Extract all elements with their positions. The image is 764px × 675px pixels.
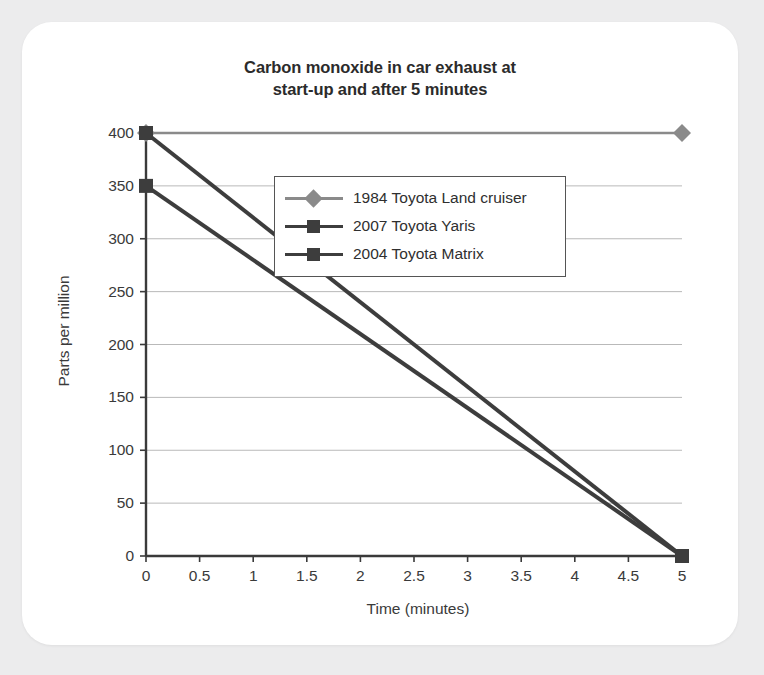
- y-tick-label: 350: [88, 177, 134, 195]
- x-axis-title: Time (minutes): [146, 600, 690, 618]
- x-tick-label: 1: [228, 567, 278, 585]
- y-tick-label: 50: [88, 494, 134, 512]
- x-tick-label: 4: [550, 567, 600, 585]
- y-tick-label: 150: [88, 388, 134, 406]
- chart-card: Carbon monoxide in car exhaust at start-…: [22, 22, 738, 645]
- chart-legend: 1984 Toyota Land cruiser2007 Toyota Yari…: [274, 176, 566, 277]
- y-tick-label: 300: [88, 230, 134, 248]
- x-tick-label: 4.5: [603, 567, 653, 585]
- x-tick-label: 5: [657, 567, 707, 585]
- legend-item[interactable]: 2007 Toyota Yaris: [285, 212, 555, 240]
- legend-label: 2004 Toyota Matrix: [353, 245, 484, 263]
- x-tick-label: 2.5: [389, 567, 439, 585]
- data-point-marker-square: [675, 549, 689, 563]
- y-axis-title: Parts per million: [55, 251, 73, 411]
- legend-label: 1984 Toyota Land cruiser: [353, 189, 527, 207]
- legend-square-icon: [285, 245, 343, 263]
- legend-label: 2007 Toyota Yaris: [353, 217, 475, 235]
- y-tick-label: 200: [88, 336, 134, 354]
- y-tick-label: 100: [88, 441, 134, 459]
- x-tick-label: 0.5: [175, 567, 225, 585]
- legend-item[interactable]: 2004 Toyota Matrix: [285, 240, 555, 268]
- y-tick-label: 0: [88, 547, 134, 565]
- x-tick-label: 3.5: [496, 567, 546, 585]
- y-tick-label: 250: [88, 283, 134, 301]
- legend-square-icon: [285, 217, 343, 235]
- x-tick-label: 2: [335, 567, 385, 585]
- legend-item[interactable]: 1984 Toyota Land cruiser: [285, 184, 555, 212]
- x-tick-label: 1.5: [282, 567, 332, 585]
- x-tick-label: 0: [121, 567, 171, 585]
- legend-diamond-icon: [285, 189, 343, 207]
- data-point-marker-square: [139, 126, 153, 140]
- x-tick-label: 3: [443, 567, 493, 585]
- data-point-marker-square: [139, 179, 153, 193]
- data-point-marker-diamond: [673, 124, 691, 142]
- y-tick-label: 400: [88, 124, 134, 142]
